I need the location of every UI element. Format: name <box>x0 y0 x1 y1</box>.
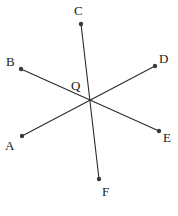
point-label-b: B <box>6 55 15 68</box>
point-label-f: F <box>102 185 109 198</box>
line-CF <box>81 24 99 179</box>
point-dot-c <box>79 22 83 26</box>
point-dot-d <box>153 64 157 68</box>
point-label-a: A <box>5 139 14 152</box>
point-label-c: C <box>74 4 83 17</box>
point-dot-e <box>157 129 161 133</box>
point-dot-f <box>97 177 101 181</box>
point-dot-b <box>19 67 23 71</box>
line-AD <box>22 66 155 136</box>
point-label-q: Q <box>71 79 80 92</box>
point-label-d: D <box>159 52 168 65</box>
geometry-canvas <box>0 0 178 216</box>
lines-group <box>21 24 159 179</box>
point-dot-a <box>20 134 24 138</box>
geometry-figure: ABCDEFQ <box>0 0 178 216</box>
point-label-e: E <box>163 131 171 144</box>
